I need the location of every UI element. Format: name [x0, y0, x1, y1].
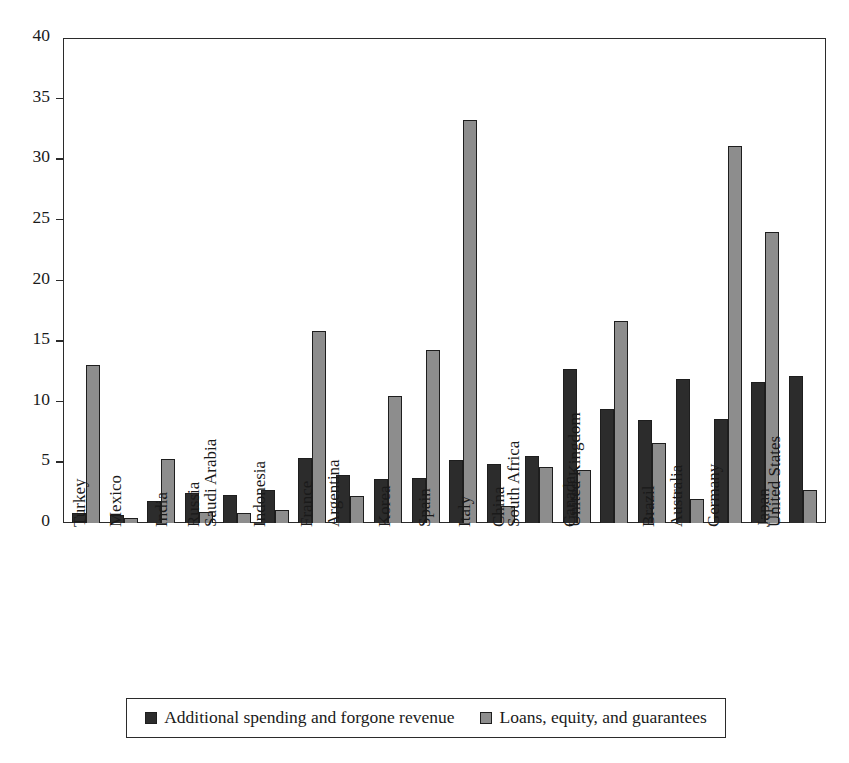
x-axis-label-text: Italy [457, 496, 474, 527]
x-axis-label: Germany [705, 464, 722, 527]
legend-item-loans-equity: Loans, equity, and guarantees [480, 709, 706, 727]
bar-group [67, 38, 105, 523]
y-axis-tick-mark [56, 461, 63, 463]
x-axis-label-text: Australia [668, 465, 685, 527]
legend-label-series1: Additional spending and forgone revenue [164, 709, 454, 727]
y-axis-tick-mark [56, 280, 63, 282]
y-axis-tick-label: 15 [33, 330, 51, 348]
bar-group [633, 38, 671, 523]
x-axis-label: South Africa [505, 441, 522, 527]
bar-group [520, 38, 558, 523]
x-axis-label-slot: Canada [558, 527, 596, 667]
x-axis-label: Brazil [640, 485, 657, 527]
x-axis-label-slot: Japan [747, 527, 785, 667]
x-axis-label-text: Korea [376, 485, 393, 527]
x-axis-label-slot: Brazil [633, 527, 671, 667]
x-axis-label-text: South Africa [505, 441, 522, 527]
x-axis-label-slot: Germany [709, 527, 747, 667]
x-axis-label-text: Spain [415, 488, 432, 527]
bar-series2 [539, 467, 553, 523]
bar-series2 [728, 146, 742, 523]
bar-series2 [803, 490, 817, 523]
chart-legend: Additional spending and forgone revenue … [126, 698, 726, 738]
x-axis-label-text: United States [767, 436, 784, 527]
bar-group [445, 38, 483, 523]
bar-group [784, 38, 822, 523]
bar-series1 [600, 409, 614, 523]
x-axis-label: Spain [415, 488, 432, 527]
bar-group [709, 38, 747, 523]
x-axis-label-text: Indonesia [251, 461, 268, 527]
bar-series2 [275, 510, 289, 523]
y-axis-tick-label: 20 [33, 270, 51, 288]
x-axis-label: Mexico [107, 475, 124, 527]
x-axis-label-slot: Italy [445, 527, 483, 667]
bar-series2 [237, 513, 251, 523]
y-axis-tick-mark [56, 158, 63, 160]
x-axis-label: Saudi Arabia [202, 439, 219, 527]
x-axis-label: Argentina [325, 459, 342, 527]
x-axis-label-slot: Korea [369, 527, 407, 667]
bar-series2 [350, 496, 364, 523]
legend-swatch-icon-series2 [480, 712, 492, 724]
bar-series-container [63, 38, 826, 523]
x-axis-label-slot: China [482, 527, 520, 667]
y-axis-tick-label: 25 [33, 209, 51, 227]
x-axis-label-slot: South Africa [520, 527, 558, 667]
bar-group [294, 38, 332, 523]
y-axis-tick-label: 5 [41, 451, 50, 469]
x-axis-label-slot: India [143, 527, 181, 667]
x-axis-label-slot: United Kingdom [596, 527, 634, 667]
x-axis-label-text: United Kingdom [566, 412, 583, 527]
x-axis-labels: TurkeyMexicoIndiaRussiaSaudi ArabiaIndon… [63, 527, 826, 667]
bar-series1 [789, 376, 803, 523]
bar-series2 [124, 518, 138, 523]
x-axis-label: Italy [457, 496, 474, 527]
x-axis-label-text: Argentina [325, 459, 342, 527]
y-axis-tick-label: 30 [33, 148, 51, 166]
bar-group [407, 38, 445, 523]
x-axis-label-text: Brazil [640, 485, 657, 527]
y-axis-tick-mark [56, 340, 63, 342]
x-axis-label: France [298, 481, 315, 527]
x-axis-label-slot: Mexico [105, 527, 143, 667]
x-axis-label-slot: France [294, 527, 332, 667]
x-axis-label-slot: Australia [671, 527, 709, 667]
x-axis-label-text: Mexico [107, 475, 124, 527]
bar-group [671, 38, 709, 523]
bar-series2 [690, 499, 704, 523]
x-axis-label-slot: Indonesia [256, 527, 294, 667]
bar-group [331, 38, 369, 523]
bar-group [369, 38, 407, 523]
x-axis-label: India [153, 492, 170, 527]
x-axis-label-slot: Saudi Arabia [218, 527, 256, 667]
y-axis-tick-label: 35 [33, 88, 51, 106]
x-axis-label-text: France [298, 481, 315, 527]
bar-series2 [463, 120, 477, 523]
bar-group [143, 38, 181, 523]
x-axis-label: Australia [668, 465, 685, 527]
legend-swatch-icon-series1 [145, 712, 157, 724]
legend-label-series2: Loans, equity, and guarantees [499, 709, 706, 727]
bar-group [105, 38, 143, 523]
y-axis-tick-label: 40 [33, 27, 51, 45]
bar-group [596, 38, 634, 523]
y-axis-tick-label: 0 [41, 512, 50, 530]
x-axis-label-text: India [153, 492, 170, 527]
x-axis-label-slot: Turkey [67, 527, 105, 667]
x-axis-label: Turkey [71, 479, 88, 528]
x-axis-label: Indonesia [251, 461, 268, 527]
x-axis-label: Korea [376, 485, 393, 527]
y-axis-tick-mark [56, 98, 63, 100]
y-axis-tick-label: 10 [33, 391, 51, 409]
bar-group [218, 38, 256, 523]
y-axis-tick-mark [56, 219, 63, 221]
x-axis-label-slot: Argentina [331, 527, 369, 667]
y-axis-tick-mark [56, 401, 63, 403]
bar-series2 [614, 321, 628, 523]
bar-series1 [525, 456, 539, 523]
x-axis-label-text: Turkey [71, 479, 88, 528]
bar-chart-figure: 0510152025303540 TurkeyMexicoIndiaRussia… [0, 0, 849, 763]
x-axis-label-slot: United States [784, 527, 822, 667]
x-axis-label-slot: Spain [407, 527, 445, 667]
